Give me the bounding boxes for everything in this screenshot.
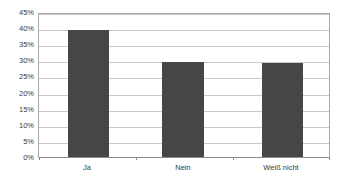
x-axis-category-labels: Ja Nein Weiß nicht (38, 163, 330, 177)
axis-baseline-0 (39, 157, 329, 158)
bar-ja[interactable] (68, 30, 109, 157)
x-category-label-ja: Ja (83, 163, 91, 172)
x-tick-1 (136, 157, 137, 160)
y-tick-label: 0% (0, 154, 34, 162)
x-category-label-weiss-nicht: Weiß nicht (263, 163, 298, 172)
plot-area (38, 13, 330, 158)
y-tick-label: 35% (0, 41, 34, 49)
y-tick-label: 5% (0, 138, 34, 146)
x-category-label-nein: Nein (175, 163, 190, 172)
y-tick-label: 10% (0, 122, 34, 130)
y-tick-label: 15% (0, 106, 34, 114)
y-tick-label: 20% (0, 90, 34, 98)
bar-nein[interactable] (162, 62, 204, 157)
y-tick-label: 30% (0, 57, 34, 65)
bar-weiss-nicht[interactable] (262, 63, 303, 157)
y-axis-tick-labels: 45% 40% 35% 30% 25% 20% 15% 10% 5% 0% (0, 13, 34, 158)
x-tick-0 (39, 157, 40, 160)
bars-layer (39, 14, 329, 157)
y-tick-label: 45% (0, 9, 34, 17)
x-tick-3 (329, 157, 330, 160)
plot-inner (39, 14, 329, 157)
y-tick-label: 25% (0, 73, 34, 81)
y-tick-label: 40% (0, 25, 34, 33)
bar-chart: 45% 40% 35% 30% 25% 20% 15% 10% 5% 0% (0, 0, 345, 186)
x-tick-2 (233, 157, 234, 160)
